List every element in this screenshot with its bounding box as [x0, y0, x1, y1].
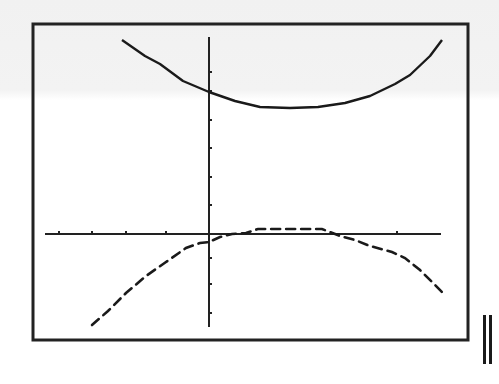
- graph-frame: [33, 24, 468, 340]
- lower-curve: [92, 229, 442, 325]
- graph-plot: [0, 0, 499, 384]
- pause-bar-left: [483, 315, 486, 364]
- pause-bar-right: [489, 315, 492, 364]
- upper-curve: [122, 40, 442, 108]
- pause-icon: [483, 315, 492, 364]
